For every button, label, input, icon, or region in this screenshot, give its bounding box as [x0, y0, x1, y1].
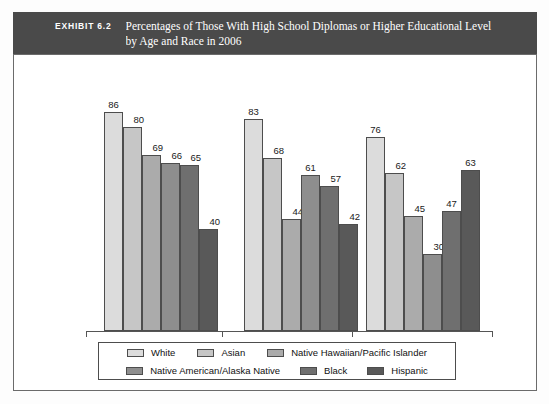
chart-frame: 868069666540836844615742766245304763 65–… — [13, 54, 537, 391]
bar[interactable] — [366, 137, 385, 331]
x-axis-tick — [86, 331, 87, 337]
bar-slot: 61 — [301, 63, 320, 331]
legend-swatch — [300, 367, 317, 375]
bar-group-bars: 836844615742 — [244, 63, 358, 331]
bar-slot: 63 — [461, 63, 480, 331]
bar[interactable] — [442, 211, 461, 331]
bar[interactable] — [301, 175, 320, 331]
bar[interactable] — [263, 158, 282, 331]
bar-slot: 40 — [199, 63, 218, 331]
bar-group-bars: 766245304763 — [366, 63, 480, 331]
bar-group-bars: 868069666540 — [104, 63, 218, 331]
legend-label: Native American/Alaska Native — [150, 365, 280, 376]
bar[interactable] — [404, 216, 423, 331]
bar-value-label: 76 — [370, 124, 381, 135]
bar-group: 868069666540 — [104, 63, 218, 331]
bar[interactable] — [180, 165, 199, 331]
bar-value-label: 86 — [108, 99, 119, 110]
legend-label: Hispanic — [391, 365, 427, 376]
exhibit-title-text: Percentages of Those With High School Di… — [126, 19, 527, 48]
bar-value-label: 61 — [305, 162, 316, 173]
legend-swatch — [367, 367, 384, 375]
legend-item[interactable]: Native Hawaiian/Pacific Islander — [267, 347, 427, 358]
bar-slot: 44 — [282, 63, 301, 331]
x-axis-tick — [492, 331, 493, 337]
exhibit-title-inner: EXHIBIT 6.2 Percentages of Those With Hi… — [55, 19, 527, 48]
bar-slot: 66 — [161, 63, 180, 331]
legend-item[interactable]: Asian — [197, 347, 245, 358]
legend-item[interactable]: Black — [300, 365, 347, 376]
legend-item[interactable]: Hispanic — [367, 365, 427, 376]
legend-swatch — [197, 349, 214, 357]
legend-item[interactable]: White — [127, 347, 175, 358]
bar[interactable] — [199, 229, 218, 331]
bar-value-label: 47 — [446, 198, 457, 209]
legend-row-2: Native American/Alaska NativeBlackHispan… — [99, 361, 455, 380]
bar-value-label: 63 — [465, 157, 476, 168]
exhibit-title-line-1: Percentages of Those With High School Di… — [126, 20, 492, 32]
bar-slot: 30 — [423, 63, 442, 331]
bar-group: 836844615742 — [244, 63, 358, 331]
bar[interactable] — [161, 163, 180, 331]
bar-slot: 62 — [385, 63, 404, 331]
exhibit-page: EXHIBIT 6.2 Percentages of Those With Hi… — [0, 0, 549, 404]
bar[interactable] — [339, 224, 358, 331]
bar[interactable] — [104, 112, 123, 331]
x-axis-tick — [352, 331, 353, 337]
legend-swatch — [126, 367, 143, 375]
legend-row-1: WhiteAsianNative Hawaiian/Pacific Island… — [99, 343, 455, 362]
bar[interactable] — [461, 170, 480, 331]
legend-swatch — [267, 349, 284, 357]
plot-area: 868069666540836844615742766245304763 65–… — [86, 63, 492, 331]
bar-slot: 80 — [123, 63, 142, 331]
bar-slot: 69 — [142, 63, 161, 331]
bar-slot: 65 — [180, 63, 199, 331]
legend-label: Native Hawaiian/Pacific Islander — [291, 347, 427, 358]
bar-slot: 83 — [244, 63, 263, 331]
bar[interactable] — [244, 119, 263, 331]
bar[interactable] — [423, 254, 442, 331]
exhibit-title-line-2: by Age and Race in 2006 — [126, 34, 527, 49]
legend-swatch — [127, 349, 144, 357]
bar-slot: 68 — [263, 63, 282, 331]
bar-slot: 76 — [366, 63, 385, 331]
bar[interactable] — [142, 155, 161, 331]
bar-slot: 57 — [320, 63, 339, 331]
bar-slot: 86 — [104, 63, 123, 331]
chart-legend: WhiteAsianNative Hawaiian/Pacific Island… — [98, 342, 456, 380]
bar-value-label: 42 — [349, 211, 360, 222]
legend-item[interactable]: Native American/Alaska Native — [126, 365, 280, 376]
x-axis-line — [86, 331, 492, 332]
bar-slot: 47 — [442, 63, 461, 331]
exhibit-number-label: EXHIBIT 6.2 — [55, 19, 126, 31]
bar[interactable] — [320, 186, 339, 331]
legend-label: White — [151, 347, 175, 358]
bar-slot: 42 — [339, 63, 358, 331]
bar[interactable] — [123, 127, 142, 331]
bar-group: 766245304763 — [366, 63, 480, 331]
x-axis-tick — [222, 331, 223, 337]
bar-value-label: 40 — [209, 216, 220, 227]
bar-slot: 45 — [404, 63, 423, 331]
bar[interactable] — [385, 173, 404, 331]
exhibit-title-bar: EXHIBIT 6.2 Percentages of Those With Hi… — [13, 12, 537, 54]
legend-label: Black — [324, 365, 347, 376]
bar-value-label: 83 — [248, 106, 259, 117]
legend-label: Asian — [221, 347, 245, 358]
bar[interactable] — [282, 219, 301, 331]
